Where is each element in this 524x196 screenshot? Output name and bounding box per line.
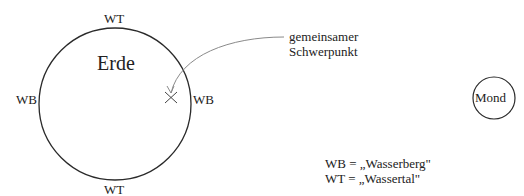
barycenter-label-line2: Schwerpunkt — [289, 45, 358, 58]
earth-circle — [39, 28, 191, 180]
bulge-label-bottom: WT — [104, 183, 124, 196]
earth-label: Erde — [97, 53, 135, 73]
diagram-canvas — [0, 0, 524, 196]
legend-line-wb: WB = „Wasserberg" — [325, 157, 431, 170]
bulge-label-top: WT — [104, 12, 124, 25]
moon-label: Mond — [475, 91, 506, 104]
bulge-label-right: WB — [193, 93, 214, 106]
barycenter-label-line1: gemeinsamer — [289, 30, 358, 43]
legend-line-wt: WT = „Wassertal" — [325, 172, 420, 185]
barycenter-cross-icon — [165, 92, 177, 103]
bulge-label-left: WB — [16, 93, 37, 106]
